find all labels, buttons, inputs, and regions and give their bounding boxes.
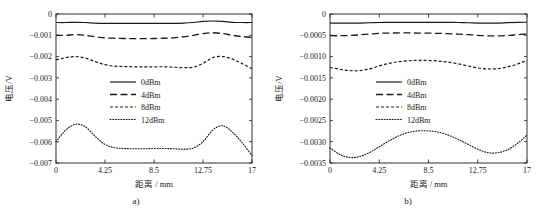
- y-tick-label: −0.0015: [299, 74, 326, 83]
- x-axis-title: 距离 / mm: [135, 179, 173, 189]
- legend-label-12dbm: 12dBm: [407, 116, 431, 125]
- y-tick-label: −0.001: [29, 31, 52, 40]
- series-line-8dbm: [330, 60, 527, 70]
- y-tick-label: 0: [48, 10, 52, 19]
- y-tick-label: −0.0035: [299, 159, 326, 168]
- x-tick-label: 8.5: [424, 166, 434, 175]
- series-line-12dbm: [56, 124, 252, 155]
- x-tick-label: 0: [54, 166, 58, 175]
- y-tick-label: −0.007: [29, 159, 52, 168]
- y-tick-label: −0.004: [29, 95, 52, 104]
- y-tick-label: 0: [322, 10, 326, 19]
- y-axis-title: 电压/V: [4, 74, 14, 101]
- chart-svg-a: 0−0.001−0.002−0.003−0.004−0.005−0.006−0.…: [0, 0, 272, 219]
- y-tick-label: −0.005: [29, 116, 52, 125]
- figure-container: 0−0.001−0.002−0.003−0.004−0.005−0.006−0.…: [0, 0, 545, 219]
- y-axis-title: 电压/V: [274, 74, 284, 101]
- plot-a: 0−0.001−0.002−0.003−0.004−0.005−0.006−0.…: [4, 10, 256, 189]
- legend-label-8dbm: 8dBm: [141, 103, 161, 112]
- x-tick-label: 12.75: [469, 166, 487, 175]
- x-tick-label: 17: [523, 166, 531, 175]
- chart-svg-b: 0−0.0005−0.0010−0.0015−0.0020−0.0025−0.0…: [272, 0, 544, 219]
- x-tick-label: 12.75: [194, 166, 212, 175]
- y-tick-label: −0.006: [29, 138, 52, 147]
- series-line-0dbm: [56, 21, 252, 23]
- panel-caption-b: b): [272, 196, 544, 206]
- y-tick-label: −0.0020: [299, 95, 326, 104]
- y-tick-label: −0.0005: [299, 31, 326, 40]
- panel-caption-a: a): [0, 196, 272, 206]
- y-tick-label: −0.0025: [299, 116, 326, 125]
- series-line-0dbm: [330, 22, 527, 23]
- chart-panel-a: 0−0.001−0.002−0.003−0.004−0.005−0.006−0.…: [0, 0, 272, 219]
- x-tick-label: 8.5: [149, 166, 159, 175]
- x-tick-label: 4.25: [98, 166, 112, 175]
- chart-panel-b: 0−0.0005−0.0010−0.0015−0.0020−0.0025−0.0…: [272, 0, 544, 219]
- y-tick-label: −0.003: [29, 74, 52, 83]
- series-line-12dbm: [330, 131, 527, 158]
- legend-label-4dbm: 4dBm: [141, 91, 161, 100]
- x-tick-label: 0: [328, 166, 332, 175]
- legend-label-8dbm: 8dBm: [407, 103, 427, 112]
- y-tick-label: −0.0030: [299, 138, 326, 147]
- legend-label-0dbm: 0dBm: [407, 78, 427, 87]
- series-line-4dbm: [56, 33, 252, 39]
- plot-b: 0−0.0005−0.0010−0.0015−0.0020−0.0025−0.0…: [274, 10, 531, 189]
- legend-label-12dbm: 12dBm: [141, 116, 165, 125]
- x-tick-label: 17: [248, 166, 256, 175]
- x-tick-label: 4.25: [372, 166, 386, 175]
- series-line-4dbm: [330, 33, 527, 36]
- legend-label-4dbm: 4dBm: [407, 91, 427, 100]
- legend-label-0dbm: 0dBm: [141, 78, 161, 87]
- x-axis-title: 距离 / mm: [410, 179, 448, 189]
- y-tick-label: −0.0010: [299, 52, 326, 61]
- y-tick-label: −0.002: [29, 52, 52, 61]
- series-line-8dbm: [56, 56, 252, 68]
